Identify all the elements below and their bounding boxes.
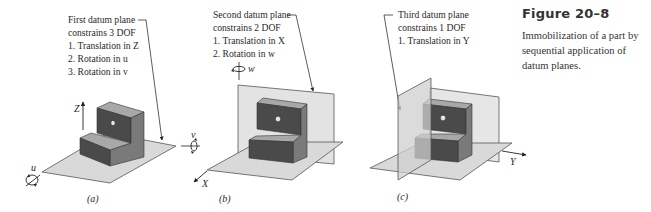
panel-a-note-line-5: 3. Rotation in v: [68, 66, 128, 77]
panel-c-note-line-1: Third datum plane: [398, 9, 469, 20]
panel-a-part-hole: [111, 120, 115, 125]
panel-a-note-line-2: constrains 3 DOF: [68, 27, 136, 38]
panel-c: Third datum plane constrains 1 DOF 1. Tr…: [370, 9, 526, 203]
panel-b-w-rotation-icon: [231, 66, 245, 72]
panel-a-v-axis-label: v: [191, 129, 196, 140]
panel-c-y-axis-label: Y: [510, 156, 517, 167]
panel-c-part-hole: [440, 115, 445, 121]
panel-c-note-line-2: constrains 1 DOF: [398, 22, 466, 33]
panel-a-note-line-1: First datum plane: [68, 14, 135, 25]
panel-a: First datum plane constrains 3 DOF 1. Tr…: [26, 14, 200, 205]
panel-a-note-line-3: 1. Translation in Z: [68, 40, 139, 51]
panel-b-note-line-2: constrains 2 DOF: [213, 22, 281, 33]
panel-b-note-line-4: 2. Rotation in w: [213, 48, 275, 59]
panel-b-x-axis-label: X: [201, 178, 209, 189]
panel-a-note-line-4: 2. Rotation in u: [68, 53, 128, 64]
panel-b-note-line-1: Second datum plane: [213, 9, 291, 20]
panel-a-label: (a): [87, 193, 99, 205]
panel-a-part: [80, 102, 144, 166]
panel-a-u-axis-label: u: [31, 162, 36, 173]
panel-b-note-line-3: 1. Translation in X: [213, 35, 285, 46]
figure-caption: Immobilization of a part by sequential a…: [522, 28, 650, 73]
panel-a-u-rotation-icon: [26, 174, 40, 187]
panel-b-leader-line: [287, 15, 313, 91]
figure-title: Figure 20–8: [522, 6, 610, 21]
panel-c-label: (c): [397, 191, 409, 203]
panel-b-part-hole: [275, 116, 280, 122]
panel-c-note-line-3: 1. Translation in Y: [398, 35, 470, 46]
panel-b: Second datum plane constrains 2 DOF 1. T…: [194, 9, 343, 205]
panel-b-label: (b): [219, 193, 231, 205]
panel-b-w-axis-label: w: [248, 63, 255, 74]
panel-a-z-axis-label: Z: [74, 103, 80, 114]
panel-c-y-axis-arrow: [502, 151, 526, 155]
